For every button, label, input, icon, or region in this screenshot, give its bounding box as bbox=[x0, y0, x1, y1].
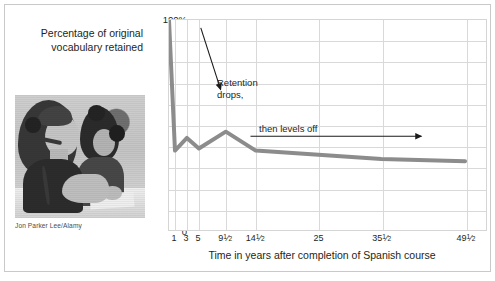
photo-block: Jon Parker Lee/Alamy bbox=[15, 95, 145, 229]
x-tick-49½: 491⁄2 bbox=[456, 233, 475, 243]
photo-credit: Jon Parker Lee/Alamy bbox=[15, 222, 145, 229]
x-tick-1: 1 bbox=[172, 233, 177, 243]
x-axis-title: Time in years after completion of Spanis… bbox=[157, 249, 487, 261]
students-in-language-lab-photo bbox=[15, 95, 145, 218]
data-series-line bbox=[169, 20, 486, 231]
chart-caption: Percentage of original vocabulary retain… bbox=[21, 27, 143, 54]
x-tick-3: 3 bbox=[184, 233, 189, 243]
annotation-then-levels-off: then levels off bbox=[259, 123, 317, 135]
annotation-retention-drops: Retention drops, bbox=[217, 77, 258, 101]
retention-line-chart: 0102030405060708090100% Retention drops,… bbox=[157, 13, 487, 259]
x-tick-14½: 141⁄2 bbox=[246, 233, 265, 243]
x-tick-5: 5 bbox=[196, 233, 201, 243]
x-tick-35½: 351⁄2 bbox=[372, 233, 391, 243]
x-tick-9½: 91⁄2 bbox=[218, 233, 232, 243]
figure-container: Percentage of original vocabulary retain… bbox=[4, 4, 491, 272]
plot-area: Retention drops, then levels off bbox=[168, 19, 487, 231]
photo-grain-overlay bbox=[15, 95, 145, 218]
x-tick-25: 25 bbox=[313, 233, 323, 243]
x-axis-tick-labels: 13591⁄2141⁄225351⁄2491⁄2 bbox=[168, 233, 487, 247]
